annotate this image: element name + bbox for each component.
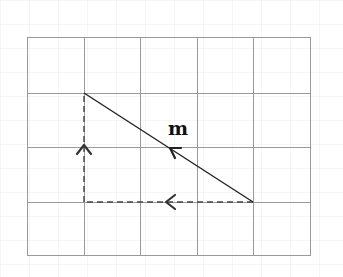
vector-label: m: [168, 119, 188, 138]
vector-arrowhead-icon: [170, 148, 181, 158]
grid: [28, 38, 311, 256]
diagram-canvas: m: [0, 0, 343, 277]
grid-border: [28, 38, 311, 256]
